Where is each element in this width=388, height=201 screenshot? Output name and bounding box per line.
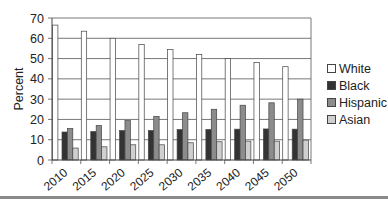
bar-asian-2030 <box>188 143 193 160</box>
x-tick-labels: 201020152020202520302035204020452050 <box>41 165 301 193</box>
bar-black-2030 <box>177 130 182 160</box>
x-tick-label: 2010 <box>41 165 71 193</box>
bar-hispanic-2045 <box>269 103 274 160</box>
legend-swatch-black <box>327 81 336 90</box>
bar-asian-2015 <box>102 147 107 160</box>
legend-swatch-white <box>327 64 336 73</box>
bar-white-2030 <box>168 49 173 160</box>
bar-hispanic-2040 <box>240 105 245 160</box>
y-tick-labels: 010203040506070 <box>30 12 44 168</box>
y-tick-label: 70 <box>30 12 44 26</box>
bar-black-2025 <box>148 131 153 160</box>
bar-black-2050 <box>292 129 297 160</box>
legend-item-black: Black <box>327 77 387 94</box>
x-tick-label: 2035 <box>185 165 215 193</box>
y-tick-label: 20 <box>30 113 44 127</box>
bar-asian-2035 <box>217 142 222 160</box>
y-tick-label: 60 <box>30 32 44 46</box>
legend-swatch-hispanic <box>327 98 336 107</box>
bar-black-2040 <box>235 129 240 160</box>
bar-asian-2025 <box>159 145 164 160</box>
bar-black-2035 <box>206 130 211 160</box>
bar-black-2015 <box>91 132 96 160</box>
x-tick-label: 2020 <box>98 165 128 193</box>
bar-hispanic-2010 <box>67 129 72 160</box>
bar-hispanic-2015 <box>96 126 101 160</box>
y-axis-label: Percent <box>12 67 26 111</box>
y-tick-label: 0 <box>37 154 44 168</box>
legend-item-white: White <box>327 60 387 77</box>
bar-black-2020 <box>120 131 125 160</box>
bar-hispanic-2030 <box>183 113 188 160</box>
bar-asian-2040 <box>245 141 250 160</box>
legend-swatch-asian <box>327 115 336 124</box>
bar-white-2050 <box>283 67 288 160</box>
bar-black-2045 <box>263 129 268 160</box>
bar-white-2035 <box>196 55 201 160</box>
x-tick-label: 2030 <box>156 165 186 193</box>
bar-white-2010 <box>53 25 58 160</box>
x-tick-label: 2050 <box>271 165 301 193</box>
y-tick-label: 10 <box>30 133 44 147</box>
bar-hispanic-2035 <box>211 109 216 160</box>
x-tick-label: 2015 <box>70 165 100 193</box>
bar-hispanic-2025 <box>154 116 159 160</box>
legend-label: Hispanic <box>339 96 387 110</box>
x-tick-label: 2025 <box>127 165 157 193</box>
bar-asian-2020 <box>130 145 135 160</box>
bar-asian-2045 <box>274 141 279 160</box>
bar-asian-2050 <box>303 140 308 160</box>
legend-label: White <box>339 62 371 76</box>
x-tick-label: 2045 <box>242 165 272 193</box>
y-tick-label: 50 <box>30 52 44 66</box>
x-tick-label: 2040 <box>214 165 244 193</box>
legend-label: Black <box>339 79 370 93</box>
bar-hispanic-2020 <box>125 121 130 160</box>
bar-hispanic-2050 <box>298 99 303 160</box>
legend-label: Asian <box>339 113 370 127</box>
bar-white-2040 <box>225 59 230 160</box>
bar-black-2010 <box>62 132 67 160</box>
bars <box>53 25 309 160</box>
legend-item-hispanic: Hispanic <box>327 94 387 111</box>
legend-item-asian: Asian <box>327 111 387 128</box>
bar-white-2045 <box>254 63 259 160</box>
y-tick-label: 40 <box>30 72 44 86</box>
bar-white-2015 <box>81 31 86 160</box>
bar-asian-2010 <box>73 148 78 160</box>
divider <box>0 196 388 199</box>
bar-white-2020 <box>110 38 115 160</box>
bar-white-2025 <box>139 44 144 160</box>
y-tick-label: 30 <box>30 93 44 107</box>
legend: White Black Hispanic Asian <box>327 60 387 128</box>
